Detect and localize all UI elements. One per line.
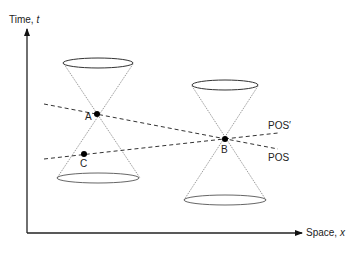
event-b-label: B (221, 145, 228, 155)
event-c-label: C (80, 159, 87, 169)
event-c-dot (81, 151, 87, 157)
pos-line (44, 104, 278, 149)
time-axis-label: Time, t (9, 15, 39, 25)
pos-label: POS (268, 153, 289, 163)
space-axis-label: Space, x (306, 228, 345, 238)
event-a-label: A (85, 112, 92, 122)
event-a-dot (94, 111, 100, 117)
spacetime-diagram (0, 0, 356, 253)
event-b-dot (222, 136, 228, 142)
light-cone-b (184, 80, 266, 205)
pos-prime-line (44, 133, 278, 159)
pos-prime-label: POS′ (268, 121, 291, 131)
